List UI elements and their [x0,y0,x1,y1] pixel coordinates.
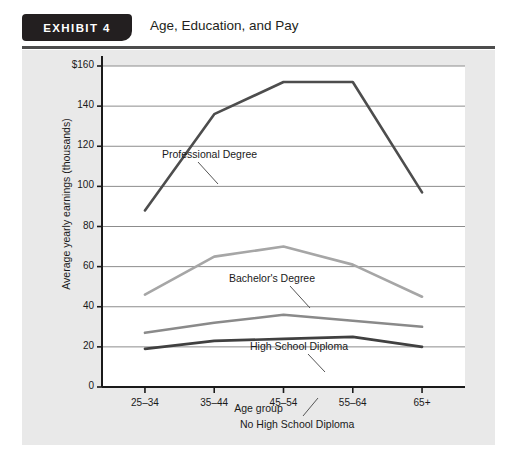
exhibit-header: EXHIBIT 4 Age, Education, and Pay [22,14,495,50]
exhibit-title: Age, Education, and Pay [150,18,299,33]
y-tick-label: 100 [36,179,94,190]
exhibit-number-tab: EXHIBIT 4 [22,14,132,41]
series-label-professional-degree: Professional Degree [162,148,257,160]
exhibit-page: EXHIBIT 4 Age, Education, and Pay Averag… [0,0,517,461]
x-tick-label: 25–34 [105,397,185,408]
header-divider [22,46,495,49]
y-tick-label: 20 [36,340,94,351]
y-tick-label: 40 [36,300,94,311]
y-tick-label: 0 [36,380,94,391]
series-label-high-school-diploma: High School Diploma [250,340,348,352]
chart-panel: Average yearly earnings (thousands) Age … [22,50,495,445]
series-label-bachelor-s-degree: Bachelor's Degree [229,272,315,284]
y-tick-label: $160 [36,59,94,70]
x-tick-label: 35–44 [174,397,254,408]
y-tick-label: 60 [36,260,94,271]
y-tick-label: 140 [36,99,94,110]
x-tick-label: 55–64 [313,397,393,408]
y-tick-label: 120 [36,139,94,150]
y-tick-label: 80 [36,220,94,231]
series-label-no-high-school-diploma: No High School Diploma [240,418,354,430]
exhibit-number-label: EXHIBIT 4 [43,22,111,34]
x-tick-label: 45–54 [244,397,324,408]
x-tick-label: 65+ [382,397,462,408]
